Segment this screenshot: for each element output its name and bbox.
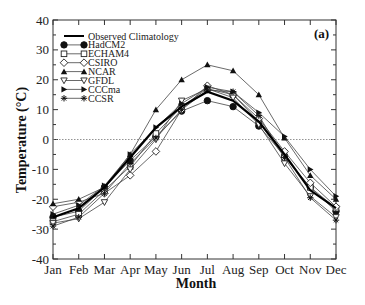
y-tick-label: 20 xyxy=(36,72,49,87)
x-tick-label: Feb xyxy=(69,262,89,277)
y-tick-label: -10 xyxy=(32,162,49,177)
x-tick-label: Mar xyxy=(94,262,116,277)
x-tick-label: Jul xyxy=(200,262,216,277)
x-tick-label: Oct xyxy=(275,262,294,277)
x-axis-title: Month xyxy=(176,276,217,291)
panel-label: (a) xyxy=(314,26,329,41)
y-tick-label: 0 xyxy=(43,132,50,147)
x-tick-label: Dec xyxy=(326,262,347,277)
y-tick-label: 30 xyxy=(36,42,49,57)
axes: -40-30-20-10010203040JanFebMarAprMayJunJ… xyxy=(32,13,347,278)
x-tick-label: Sep xyxy=(249,262,269,277)
y-axis-title: Temperature (°C) xyxy=(14,87,30,194)
y-tick-label: 40 xyxy=(36,13,49,28)
x-tick-label: Apr xyxy=(120,262,141,277)
y-tick-label: -20 xyxy=(32,192,49,207)
temperature-chart: -40-30-20-10010203040JanFebMarAprMayJunJ… xyxy=(0,0,365,305)
x-tick-label: Nov xyxy=(299,262,322,277)
series-ccsr xyxy=(50,87,339,229)
x-tick-label: May xyxy=(144,262,168,277)
legend-label: CCSR xyxy=(88,93,114,104)
x-tick-label: Jan xyxy=(44,262,62,277)
x-tick-label: Jun xyxy=(173,262,192,277)
legend: Observed ClimatologyHadCM2ECHAM4CSIRONCA… xyxy=(60,31,179,104)
legend-item: CCSR xyxy=(61,93,114,104)
y-tick-label: 10 xyxy=(36,102,49,117)
series-hadcm2 xyxy=(50,97,339,220)
y-tick-label: -30 xyxy=(32,222,49,237)
series-gfdl xyxy=(50,86,339,226)
x-tick-label: Aug xyxy=(222,262,245,277)
